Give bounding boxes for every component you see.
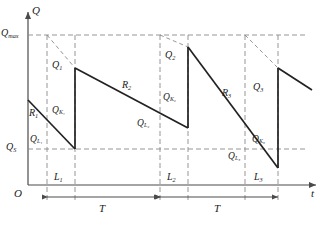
ramp-label-r3: R3 (222, 88, 231, 99)
origin-label: O (14, 188, 22, 199)
r3-sub: 3 (228, 92, 231, 99)
ql2-base: Q (137, 118, 144, 128)
qs-sub: S (13, 146, 16, 153)
q1-sub: 1 (59, 64, 62, 71)
l2-sub: 2 (173, 176, 176, 183)
ramp-label-r1: R1 (29, 108, 38, 119)
ramp-r4-partial (278, 68, 312, 90)
ql1-sub: L₁ (37, 138, 42, 144)
ql3-label: QL₃ (228, 152, 240, 162)
r2-sub: 2 (128, 84, 131, 91)
qk2-sub: K₂ (170, 96, 176, 102)
qk3-base: Q (252, 134, 259, 144)
y-axis-label: Q (32, 5, 40, 16)
ramp-r3 (188, 47, 278, 168)
l1-sub: 1 (60, 176, 63, 183)
storage-curve (28, 47, 312, 168)
x-axis-label: t (311, 188, 314, 199)
vertical-guides (47, 35, 278, 200)
rise-label-q2: Q2 (165, 50, 175, 61)
ql3-base: Q (228, 151, 235, 161)
qk3-sub: K₃ (259, 138, 265, 144)
diagram-svg (0, 0, 329, 235)
dashed-projections (47, 35, 278, 68)
projection-2 (160, 35, 188, 47)
ql1-base: Q (30, 134, 37, 144)
qs-tick-label: QS (6, 142, 16, 153)
period-label-t2: T (214, 203, 220, 214)
q3-sub: 3 (260, 86, 263, 93)
q2-sub: 2 (172, 54, 175, 61)
l3-sub: 3 (260, 176, 263, 183)
ramp-label-r2: R2 (122, 80, 131, 91)
rise-label-q3: Q3 (253, 82, 263, 93)
qmax-tick-label: Qmax (1, 28, 19, 39)
qk2-base: Q (163, 92, 170, 102)
ql2-label: QL₂ (137, 119, 149, 129)
ql3-sub: L₃ (235, 155, 240, 161)
rise-label-q1: Q1 (52, 60, 62, 71)
figure-canvas: Q t O Qmax QS R1 R2 R3 Q1 Q2 Q3 QK₁ QK₂ … (0, 0, 329, 235)
ql1-label: QL₁ (30, 135, 42, 145)
qk1-base: Q (52, 105, 59, 115)
qk3-label: QK₃ (252, 135, 265, 145)
interval-label-l2: L2 (167, 172, 176, 183)
r1-sub: 1 (35, 112, 38, 119)
qk2-label: QK₂ (163, 93, 176, 103)
projection-3 (245, 35, 278, 68)
qk1-label: QK₁ (52, 106, 65, 116)
qk1-sub: K₁ (59, 109, 65, 115)
qmax-sub: max (8, 32, 18, 39)
interval-label-l3: L3 (254, 172, 263, 183)
period-label-t1: T (99, 203, 105, 214)
ql2-sub: L₂ (144, 122, 149, 128)
interval-label-l1: L1 (54, 172, 63, 183)
